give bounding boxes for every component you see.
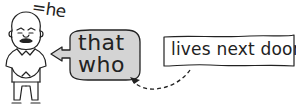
bubble-text-who: who: [78, 52, 125, 77]
person-icon: [6, 12, 46, 103]
box-text: lives next door: [171, 39, 296, 59]
diagram: =he that who lives next door: [0, 0, 296, 109]
